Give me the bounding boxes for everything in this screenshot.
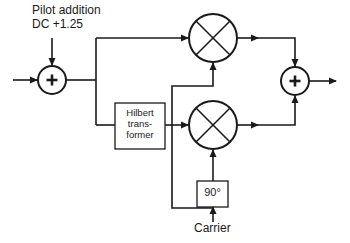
hilbert-label-line1: Hilbert — [115, 107, 165, 118]
hilbert-label-line2: trans- — [115, 118, 165, 129]
block-diagram — [0, 0, 350, 243]
mixer-top-out — [257, 38, 295, 66]
hilbert-label: Hilbert trans- former — [115, 107, 165, 140]
hilbert-label-line3: former — [115, 129, 165, 140]
phase-90-label: 90° — [197, 187, 228, 198]
carrier-label: Carrier — [194, 222, 231, 235]
mixer-bottom-out — [257, 96, 295, 125]
pilot-label-line1: Pilot addition — [32, 4, 101, 17]
pilot-label-line2: DC +1.25 — [32, 18, 83, 31]
